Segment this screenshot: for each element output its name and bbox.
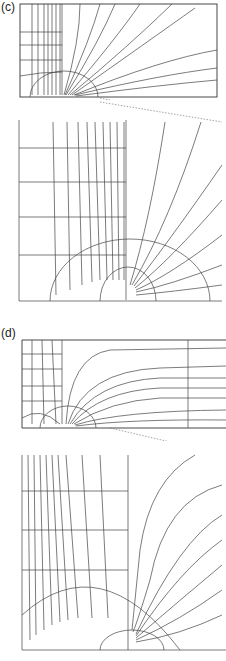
panel-d-detail-plot bbox=[0, 440, 226, 661]
panel-c-overview-plot bbox=[0, 0, 226, 100]
panel-d-overview-plot bbox=[0, 326, 226, 441]
panel-c-detail-plot bbox=[0, 100, 226, 325]
